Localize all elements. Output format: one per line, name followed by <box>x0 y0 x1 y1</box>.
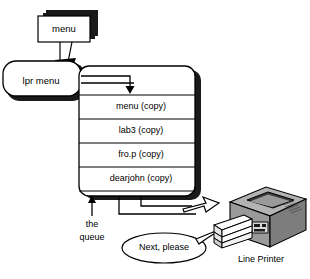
printer-output-tray <box>214 215 252 248</box>
queue-item-label-0: menu (copy) <box>88 102 194 111</box>
diagram-canvas: menu lpr menu menu (copy) lab3 (copy) fr… <box>0 0 310 279</box>
queue-caption-line-1: the <box>70 220 114 229</box>
lpr-menu-label: lpr menu <box>8 76 74 86</box>
queue-item-label-1: lab3 (copy) <box>88 126 194 135</box>
diagram-graphics <box>0 0 310 279</box>
menu-document-label: menu <box>40 24 88 34</box>
printer-panel-led-1 <box>254 224 260 227</box>
queue-caption-line-2: queue <box>70 233 114 242</box>
printer-panel-display <box>254 229 265 232</box>
line-printer-group <box>214 187 306 248</box>
line-printer-label: Line Printer <box>222 255 300 264</box>
queue-item-label-3: dearjohn (copy) <box>88 174 194 183</box>
speech-bubble-text: Next, please <box>124 243 204 252</box>
printer-panel-led-2 <box>262 224 266 227</box>
printer-control-panel[interactable] <box>252 222 268 233</box>
queue-item-label-2: fro.p (copy) <box>88 150 194 159</box>
